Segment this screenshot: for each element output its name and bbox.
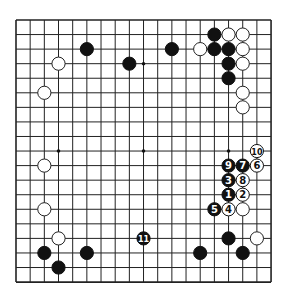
move-number: 3 [225,175,232,186]
black-stone[interactable] [80,43,93,56]
black-stone[interactable] [222,232,235,245]
move-number: 1 [225,189,232,200]
white-stone[interactable] [194,43,207,56]
black-stone[interactable] [165,43,178,56]
move-number: 4 [225,204,232,215]
black-stone[interactable] [80,246,93,259]
black-stone[interactable] [222,57,235,70]
numbered-stone-8[interactable]: 8 [236,174,249,187]
star-point-icon [57,149,61,153]
numbered-stone-3[interactable]: 3 [222,174,235,187]
white-stone[interactable] [236,86,249,99]
move-number: 11 [138,235,150,244]
white-stone[interactable] [236,43,249,56]
go-board-canvas[interactable]: 1234567891011 [0,0,285,299]
white-stone[interactable] [38,159,51,172]
white-stone[interactable] [222,28,235,41]
star-point-icon [142,62,146,66]
white-stone[interactable] [250,232,263,245]
star-point-icon [142,149,146,153]
white-stone[interactable] [38,203,51,216]
move-number: 6 [253,160,260,171]
black-stone[interactable] [208,43,221,56]
white-stone[interactable] [236,203,249,216]
white-stone[interactable] [38,86,51,99]
black-stone[interactable] [194,246,207,259]
black-stone[interactable] [38,246,51,259]
numbered-stone-4[interactable]: 4 [222,203,235,216]
numbered-stone-9[interactable]: 9 [222,159,235,172]
move-number: 7 [239,160,246,171]
black-stone[interactable] [123,57,136,70]
move-number: 9 [225,160,232,171]
move-number: 8 [239,175,246,186]
black-stone[interactable] [208,28,221,41]
black-stone[interactable] [222,72,235,85]
numbered-stone-2[interactable]: 2 [236,188,249,201]
numbered-stone-7[interactable]: 7 [236,159,249,172]
numbered-stone-1[interactable]: 1 [222,188,235,201]
move-number: 10 [251,148,263,157]
white-stone[interactable] [236,101,249,114]
move-number: 2 [239,189,246,200]
black-stone[interactable] [236,246,249,259]
white-stone[interactable] [236,57,249,70]
white-stone[interactable] [236,28,249,41]
numbered-stone-11[interactable]: 11 [137,232,150,245]
white-stone[interactable] [52,57,65,70]
black-stone[interactable] [222,43,235,56]
star-point-icon [227,149,231,153]
move-number: 5 [211,204,218,215]
numbered-stone-6[interactable]: 6 [250,159,263,172]
go-board[interactable]: 1234567891011 [0,0,285,299]
black-stone[interactable] [52,261,65,274]
numbered-stone-10[interactable]: 10 [250,144,263,157]
white-stone[interactable] [52,232,65,245]
numbered-stone-5[interactable]: 5 [208,203,221,216]
